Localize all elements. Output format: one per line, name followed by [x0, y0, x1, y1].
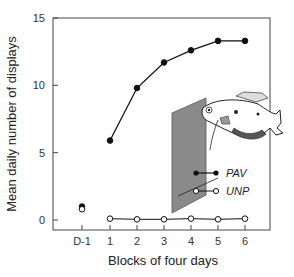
data-point: [242, 38, 248, 44]
data-point: [188, 48, 194, 54]
chart-figure: 051015 D-1123456 PAV UNP: [0, 0, 294, 277]
x-tick-label: 2: [134, 235, 140, 247]
data-point: [161, 60, 167, 66]
x-axis: D-1123456: [73, 225, 248, 247]
mirror-panel: [172, 98, 206, 213]
legend-unp-label: UNP: [226, 185, 250, 197]
data-point: [134, 85, 140, 91]
data-point: [215, 38, 221, 44]
x-tick-label: 3: [161, 235, 167, 247]
legend-pav-label: PAV: [226, 167, 248, 179]
data-point: [107, 216, 113, 222]
y-axis-label: Mean daily number of displays: [4, 36, 19, 212]
line-chart: 051015 D-1123456 PAV UNP: [0, 0, 294, 277]
data-point: [79, 206, 85, 212]
data-series: [79, 38, 248, 222]
y-tick-label: 5: [39, 147, 45, 159]
y-tick-label: 0: [39, 214, 45, 226]
y-tick-label: 15: [33, 12, 45, 24]
x-tick-label: 1: [107, 235, 113, 247]
y-axis: 051015: [33, 12, 58, 226]
x-tick-label: 6: [242, 235, 248, 247]
data-point: [242, 216, 248, 222]
x-tick-label: 5: [215, 235, 221, 247]
x-tick-label: D-1: [73, 235, 91, 247]
data-point: [134, 217, 140, 223]
x-tick-label: 4: [188, 235, 194, 247]
data-point: [215, 217, 221, 223]
y-tick-label: 10: [33, 79, 45, 91]
x-axis-label: Blocks of four days: [108, 253, 218, 268]
data-point: [107, 138, 113, 144]
data-point: [161, 217, 167, 223]
data-point: [188, 216, 194, 222]
